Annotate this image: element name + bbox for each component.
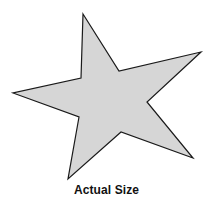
star-figure: Actual Size <box>0 0 211 201</box>
star-icon <box>0 0 211 201</box>
star-shape <box>13 14 201 179</box>
figure-caption: Actual Size <box>0 183 211 197</box>
